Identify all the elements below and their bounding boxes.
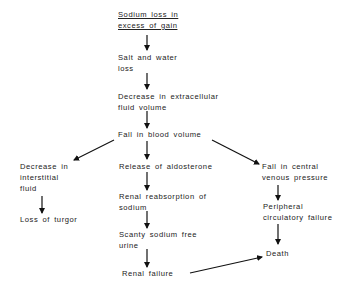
node-line: fluid volume bbox=[118, 102, 219, 113]
node-line: Fall in central bbox=[262, 161, 328, 172]
node-loss-turgor: Loss of turgor bbox=[20, 214, 77, 225]
arrow-blood-to-interstitial bbox=[74, 140, 114, 160]
node-line: Decrease in extracellular bbox=[118, 91, 219, 102]
node-line: Renal failure bbox=[122, 268, 173, 279]
node-line: Loss of turgor bbox=[20, 214, 77, 225]
node-line: Death bbox=[266, 248, 289, 259]
node-line: fluid bbox=[20, 183, 68, 194]
node-line: venous pressure bbox=[262, 172, 328, 183]
node-salt-water-loss: Salt and water loss bbox=[118, 52, 177, 74]
arrow-blood-to-cvp bbox=[212, 140, 259, 164]
node-peripheral-failure: Peripheral circulatory failure bbox=[263, 201, 332, 223]
node-line: Salt and water bbox=[118, 52, 177, 63]
node-line: interstitial bbox=[20, 172, 68, 183]
node-sodium-loss: Sodium loss in excess of gain bbox=[118, 9, 178, 31]
node-line: Scanty sodium free bbox=[119, 229, 197, 240]
node-line: excess of gain bbox=[118, 20, 178, 31]
node-scanty-urine: Scanty sodium free urine bbox=[119, 229, 197, 251]
node-release-aldosterone: Release of aldosterone bbox=[119, 161, 212, 172]
node-renal-failure: Renal failure bbox=[122, 268, 173, 279]
node-decrease-ecf: Decrease in extracellular fluid volume bbox=[118, 91, 219, 113]
node-fall-blood-volume: Fall in blood volume bbox=[118, 129, 201, 140]
node-line: circulatory failure bbox=[263, 212, 332, 223]
node-line: Renal reabsorption of bbox=[119, 191, 206, 202]
node-line: Sodium loss in bbox=[118, 9, 178, 20]
node-line: sodium bbox=[119, 202, 206, 213]
node-renal-reabsorption: Renal reabsorption of sodium bbox=[119, 191, 206, 213]
node-decrease-interstitial: Decrease in interstitial fluid bbox=[20, 161, 68, 194]
node-line: Peripheral bbox=[263, 201, 332, 212]
node-line: urine bbox=[119, 240, 197, 251]
node-line: Decrease in bbox=[20, 161, 68, 172]
arrow-renal-failure-to-death bbox=[190, 257, 262, 273]
node-line: loss bbox=[118, 63, 177, 74]
node-death: Death bbox=[266, 248, 289, 259]
node-line: Fall in blood volume bbox=[118, 129, 201, 140]
node-fall-cvp: Fall in central venous pressure bbox=[262, 161, 328, 183]
node-line: Release of aldosterone bbox=[119, 161, 212, 172]
